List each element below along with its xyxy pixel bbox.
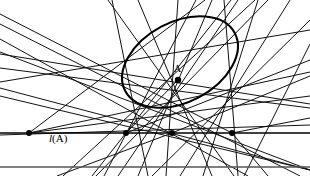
line-x-4 xyxy=(244,44,310,176)
node-p2 xyxy=(123,130,129,136)
line-p3-a xyxy=(166,0,178,176)
pole-point-label: A xyxy=(174,64,181,74)
node-p1 xyxy=(26,130,32,136)
line-p4-d xyxy=(180,0,290,176)
line-p1-b xyxy=(0,14,232,133)
pencil-lines xyxy=(0,0,310,176)
line-p4-c xyxy=(0,52,310,170)
node-p3 xyxy=(169,130,175,136)
line-p2-e xyxy=(126,60,310,133)
geometry-figure: l(A) A xyxy=(0,0,310,176)
polar-line-label-rest: (A) xyxy=(52,132,67,144)
figure-canvas xyxy=(0,0,310,176)
line-p3-c xyxy=(118,0,238,176)
node-pole-a xyxy=(175,77,181,83)
polar-line-label: l(A) xyxy=(49,133,67,144)
node-p4 xyxy=(229,130,235,136)
line-p3-f xyxy=(57,133,172,176)
